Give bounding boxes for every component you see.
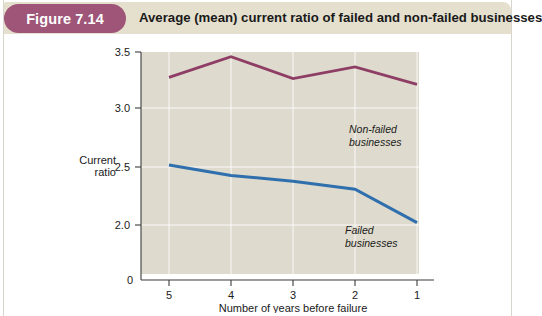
x-axis-title: Number of years before failure xyxy=(219,302,368,313)
figure-number-badge: Figure 7.14 xyxy=(4,4,126,33)
x-tick-label-2: 2 xyxy=(352,289,358,301)
chart-svg: 3.5 3.0 2.5 2.0 0 Current ratio 5 xyxy=(4,34,511,313)
y-tick-label-2-0: 2.0 xyxy=(115,219,130,231)
frame-edge-right xyxy=(511,0,512,316)
figure-number-label: Figure 7.14 xyxy=(26,11,104,27)
x-tick-marks xyxy=(169,280,417,286)
y-tick-label-2-5: 2.5 xyxy=(115,161,130,173)
line-chart: 3.5 3.0 2.5 2.0 0 Current ratio 5 xyxy=(4,34,511,313)
y-tick-label-3-0: 3.0 xyxy=(115,102,130,114)
figure-header-bar: Figure 7.14 Average (mean) current ratio… xyxy=(4,2,511,34)
figure-body-panel: 3.5 3.0 2.5 2.0 0 Current ratio 5 xyxy=(4,34,511,313)
y-axis-zero-label: 0 xyxy=(127,274,133,286)
annotation-non-failed-line1: Non-failed xyxy=(349,123,398,135)
y-tick-label-3-5: 3.5 xyxy=(115,46,130,58)
annotation-failed-line1: Failed xyxy=(345,224,375,236)
annotation-failed-line2: businesses xyxy=(345,237,398,249)
y-axis-title-line2: ratio xyxy=(95,166,116,178)
y-axis-title-line1: Current xyxy=(79,154,116,166)
annotation-non-failed-line2: businesses xyxy=(349,136,402,148)
x-tick-label-4: 4 xyxy=(228,289,234,301)
figure-title: Average (mean) current ratio of failed a… xyxy=(139,10,542,25)
x-tick-label-1: 1 xyxy=(414,289,420,301)
x-tick-label-3: 3 xyxy=(290,289,296,301)
y-tick-marks xyxy=(135,52,141,225)
x-tick-label-5: 5 xyxy=(166,289,172,301)
